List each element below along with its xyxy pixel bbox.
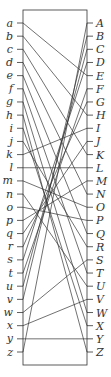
connection-z-A	[23, 23, 87, 352]
left-label-b: b	[6, 30, 13, 43]
right-label-U: U	[96, 280, 106, 293]
right-label-L: L	[95, 162, 103, 175]
right-label-X: X	[95, 320, 105, 333]
connection-w-S	[23, 260, 87, 313]
left-label-a: a	[6, 17, 13, 30]
left-label-j: j	[7, 135, 14, 148]
right-label-J: J	[94, 135, 101, 148]
connection-lines	[23, 23, 87, 352]
connection-c-K	[23, 49, 87, 154]
right-label-G: G	[96, 96, 105, 109]
left-label-m: m	[3, 174, 13, 187]
left-label-e: e	[6, 69, 13, 82]
left-label-z: z	[6, 346, 13, 359]
right-label-V: V	[96, 293, 105, 306]
left-label-w: w	[4, 306, 14, 319]
left-label-x: x	[7, 319, 14, 332]
right-label-B: B	[95, 30, 104, 43]
right-label-Q: Q	[96, 228, 105, 241]
right-label-A: A	[95, 17, 104, 30]
connection-e-Q	[23, 76, 87, 234]
left-label-i: i	[9, 122, 13, 135]
right-label-O: O	[96, 201, 105, 214]
left-label-p: p	[6, 214, 13, 227]
connection-m-O	[23, 181, 87, 207]
left-label-v: v	[7, 293, 14, 306]
right-label-C: C	[96, 43, 105, 56]
left-label-f: f	[8, 82, 15, 95]
right-label-F: F	[95, 83, 104, 96]
right-label-N: N	[95, 188, 106, 201]
right-label-T: T	[96, 267, 105, 280]
right-label-W: W	[96, 307, 109, 320]
right-label-R: R	[95, 241, 104, 254]
connection-k-I	[23, 128, 87, 154]
right-label-P: P	[95, 214, 104, 227]
left-label-l: l	[9, 161, 13, 174]
matching-diagram: abcdefghijklmnopqrstuvwxyz ABCDEFGHIJKLM…	[0, 0, 111, 377]
left-label-u: u	[6, 280, 13, 293]
right-label-K: K	[95, 149, 105, 162]
left-label-g: g	[6, 95, 13, 108]
left-label-c: c	[7, 43, 13, 56]
left-label-k: k	[6, 148, 13, 161]
right-labels: ABCDEFGHIJKLMNOPQRSTUVWXYZ	[87, 17, 109, 359]
right-label-Y: Y	[96, 333, 105, 346]
right-label-S: S	[96, 254, 104, 267]
left-label-o: o	[6, 201, 13, 214]
right-label-E: E	[95, 70, 104, 83]
connection-a-E	[23, 23, 87, 76]
left-label-q: q	[6, 227, 13, 240]
left-label-s: s	[7, 253, 13, 266]
right-label-D: D	[95, 56, 105, 69]
right-label-Z: Z	[95, 346, 104, 359]
left-label-r: r	[8, 240, 14, 253]
left-label-t: t	[9, 267, 14, 280]
right-label-I: I	[95, 122, 101, 135]
left-label-y: y	[6, 332, 14, 345]
left-label-n: n	[6, 188, 13, 201]
right-label-M: M	[95, 175, 108, 188]
left-label-h: h	[6, 109, 13, 122]
right-label-H: H	[95, 109, 106, 122]
left-labels: abcdefghijklmnopqrstuvwxyz	[3, 17, 23, 359]
left-label-d: d	[6, 56, 13, 69]
connection-g-W	[23, 102, 87, 313]
